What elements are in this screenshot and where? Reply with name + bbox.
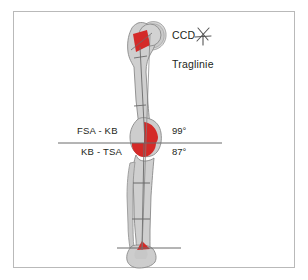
- femur-axis-label: FSA - KB: [77, 126, 118, 136]
- anatomical-figure: CCD Traglinie FSA - KB KB - TSA 99° 87°: [0, 0, 308, 280]
- tibia-axis-label: KB - TSA: [81, 147, 122, 157]
- ccd-label: CCD: [172, 30, 195, 41]
- femur-angle-value: 99°: [172, 126, 186, 136]
- annotation-text-layer: CCD Traglinie FSA - KB KB - TSA 99° 87°: [0, 0, 308, 280]
- tibia-angle-value: 87°: [172, 147, 186, 157]
- traglinie-label: Traglinie: [172, 59, 214, 70]
